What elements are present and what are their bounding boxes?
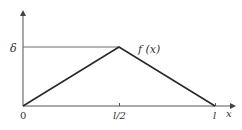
triangle-function-diagram: δ f (x) 0 l/2 l x (0, 0, 242, 130)
tick-label-l: l (213, 110, 216, 121)
function-label: f (x) (137, 43, 160, 56)
tick-label-zero: 0 (20, 110, 26, 121)
tick-label-half-l: l/2 (113, 110, 126, 121)
x-axis-label: x (226, 108, 232, 119)
function-curve (23, 47, 215, 106)
delta-label: δ (10, 42, 17, 55)
